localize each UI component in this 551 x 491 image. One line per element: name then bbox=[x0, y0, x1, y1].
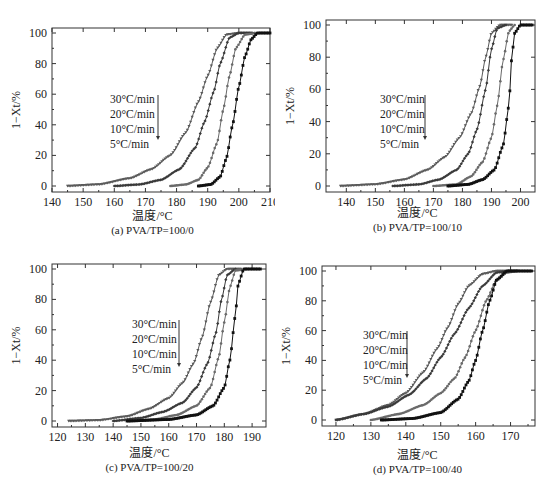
x-tick-label: 150 bbox=[132, 430, 150, 444]
y-tick-label: 100 bbox=[29, 262, 47, 276]
y-tick-label: 80 bbox=[309, 50, 321, 64]
series-1 bbox=[334, 269, 512, 421]
chart-panel-d: 0204060801001201301401501601701−Xt/% 30°… bbox=[275, 245, 550, 490]
y-axis-label: 1−Xt/% bbox=[9, 91, 23, 129]
legend-item: 30°C/min bbox=[132, 317, 177, 332]
x-tick-label: 140 bbox=[397, 429, 415, 443]
y-tick-label: 20 bbox=[35, 384, 47, 398]
legend-d: 30°C/min 20°C/min 10°C/min 5°C/min bbox=[363, 328, 408, 388]
x-tick-label: 120 bbox=[327, 429, 345, 443]
x-tick-label: 160 bbox=[160, 430, 178, 444]
x-tick-label: 150 bbox=[432, 429, 450, 443]
legend-item: 5°C/min bbox=[363, 373, 408, 388]
plot-frame bbox=[326, 20, 535, 192]
y-tick-label: 20 bbox=[35, 148, 47, 162]
y-axis-label: 1−Xt/% bbox=[283, 87, 297, 125]
x-axis-label-c: 温度/°C bbox=[12, 443, 287, 461]
arrow-down-icon bbox=[177, 363, 181, 367]
series-0 bbox=[339, 24, 513, 188]
legend-item: 30°C/min bbox=[380, 92, 425, 107]
x-tick-label: 130 bbox=[362, 429, 380, 443]
x-axis-label-b: 温度/°C bbox=[280, 203, 551, 221]
x-axis-label-a: 温度/°C bbox=[15, 206, 290, 224]
series-line bbox=[341, 25, 512, 186]
plot-frame bbox=[52, 28, 270, 192]
y-axis-label: 1−Xt/% bbox=[9, 326, 23, 364]
legend-item: 5°C/min bbox=[380, 137, 425, 152]
legend-item: 20°C/min bbox=[363, 343, 408, 358]
x-tick-label: 190 bbox=[243, 430, 261, 444]
y-tick-label: 60 bbox=[35, 323, 47, 337]
legend-item: 20°C/min bbox=[380, 107, 425, 122]
x-tick-label: 120 bbox=[49, 430, 67, 444]
chart-panel-c: 0204060801001201301401501601701801901−Xt… bbox=[0, 245, 275, 490]
caption-c: (c) PVA/TP=100/20 bbox=[12, 461, 287, 473]
legend-b: 30°C/min 20°C/min 10°C/min 5°C/min bbox=[380, 92, 425, 152]
series-3 bbox=[447, 24, 534, 188]
caption-d: (d) PVA/TP=100/40 bbox=[280, 463, 551, 475]
y-tick-label: 40 bbox=[35, 118, 47, 132]
legend-a: 30°C/min 20°C/min 10°C/min 5°C/min bbox=[110, 92, 155, 152]
legend-item: 30°C/min bbox=[110, 92, 155, 107]
y-tick-label: 0 bbox=[315, 179, 321, 193]
y-tick-label: 60 bbox=[35, 87, 47, 101]
y-tick-label: 0 bbox=[311, 413, 317, 427]
y-tick-label: 0 bbox=[41, 179, 47, 193]
y-tick-label: 100 bbox=[299, 264, 317, 278]
y-tick-label: 100 bbox=[303, 18, 321, 32]
y-tick-label: 100 bbox=[29, 26, 47, 40]
legend-item: 5°C/min bbox=[132, 362, 177, 377]
chart-panel-a: 0204060801001401501601701801902002101−Xt… bbox=[0, 0, 275, 245]
x-axis-label-d: 温度/°C bbox=[280, 445, 551, 463]
y-tick-label: 20 bbox=[305, 383, 317, 397]
y-tick-label: 60 bbox=[309, 82, 321, 96]
y-tick-label: 0 bbox=[41, 414, 47, 428]
legend-item: 10°C/min bbox=[380, 122, 425, 137]
y-tick-label: 80 bbox=[305, 294, 317, 308]
legend-item: 10°C/min bbox=[110, 122, 155, 137]
legend-item: 5°C/min bbox=[110, 137, 155, 152]
legend-item: 30°C/min bbox=[363, 328, 408, 343]
caption-a: (a) PVA/TP=100/0 bbox=[15, 224, 290, 236]
series-0 bbox=[66, 32, 253, 188]
y-tick-label: 40 bbox=[35, 353, 47, 367]
y-axis-label: 1−Xt/% bbox=[279, 327, 293, 365]
y-tick-label: 80 bbox=[35, 292, 47, 306]
x-tick-label: 180 bbox=[215, 430, 233, 444]
legend-item: 10°C/min bbox=[132, 347, 177, 362]
caption-b: (b) PVA/TP=100/10 bbox=[280, 221, 551, 233]
x-tick-label: 140 bbox=[104, 430, 122, 444]
x-tick-label: 130 bbox=[76, 430, 94, 444]
chart-panel-b: 0204060801001401501601701801902001−Xt/% … bbox=[275, 0, 550, 245]
y-tick-label: 40 bbox=[305, 353, 317, 367]
legend-item: 20°C/min bbox=[110, 107, 155, 122]
arrow-down-icon bbox=[156, 136, 160, 140]
legend-item: 20°C/min bbox=[132, 332, 177, 347]
y-tick-label: 80 bbox=[35, 57, 47, 71]
y-tick-label: 40 bbox=[309, 115, 321, 129]
legend-item: 10°C/min bbox=[363, 358, 408, 373]
series-line bbox=[448, 25, 532, 186]
y-tick-label: 60 bbox=[305, 324, 317, 338]
x-tick-label: 170 bbox=[188, 430, 206, 444]
x-tick-label: 170 bbox=[502, 429, 520, 443]
y-tick-label: 20 bbox=[309, 147, 321, 161]
x-tick-label: 160 bbox=[467, 429, 485, 443]
legend-c: 30°C/min 20°C/min 10°C/min 5°C/min bbox=[132, 317, 177, 377]
